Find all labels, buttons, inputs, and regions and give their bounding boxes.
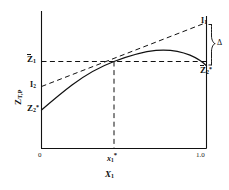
y-axis-label-subscript: T,P [17, 89, 23, 98]
y-axis-label-symbol: Z [13, 99, 23, 105]
z1-bar-subscript: 1 [33, 58, 36, 64]
z1-bar-label: Z1 [27, 55, 36, 64]
x-axis-label-subscript: 1 [111, 173, 114, 179]
z2-bar-star-symbol: Z [200, 66, 206, 75]
property-curve [42, 50, 207, 110]
x-axis-label: X1 [105, 170, 114, 179]
delta-brace [212, 25, 216, 66]
tangent-dashed-line [42, 23, 207, 87]
z2-star-label: Z2* [27, 104, 39, 113]
delta-label: Δ [217, 39, 222, 47]
y-axis-label: ZT,P [14, 89, 23, 105]
x1-star-superscript: * [114, 151, 117, 158]
z2-bar-star-superscript: * [209, 66, 212, 72]
i2-subscript: 2 [33, 83, 36, 89]
z1-bar-symbol: Z [27, 55, 33, 64]
x-tick-label-x1-star: x1* [107, 152, 117, 163]
i1-subscript: 1 [204, 19, 207, 25]
z2-bar-star-label: Z2* [200, 66, 212, 75]
x-tick-label-1: 1.0 [196, 152, 205, 159]
i2-label: I2 [30, 81, 36, 89]
figure-container: ZT,P X1 0 1.0 x1* Z1 I2 Z2* I1 Z2* Δ [0, 0, 229, 190]
z2-star-superscript: * [36, 104, 39, 110]
x-tick-label-0: 0 [38, 152, 42, 159]
i1-label: I1 [201, 17, 207, 25]
